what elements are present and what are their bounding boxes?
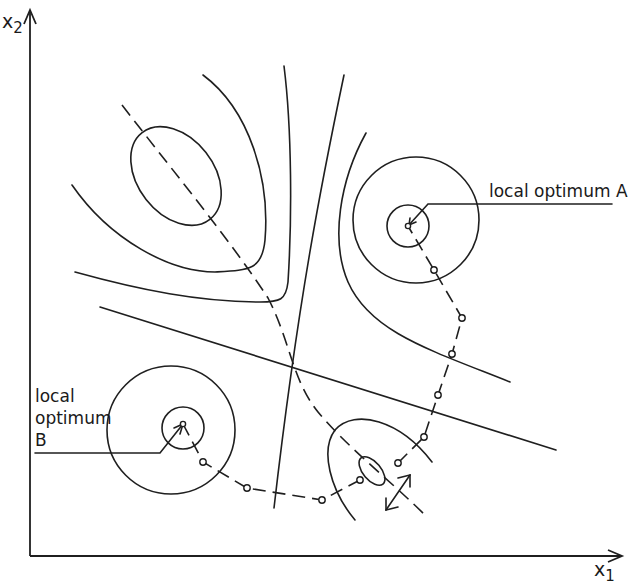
upper-left-contours [72,66,291,302]
x-axis-label: x1 [594,558,615,583]
start-region-contours [328,419,432,520]
contour-figure: x2 x1 local optimum A local optimum B [0,0,631,583]
optimum-a-point [405,223,410,228]
path-a-step [435,392,441,398]
path-a-step [459,315,465,321]
search-path-b-line [183,424,360,500]
path-a-step [449,351,455,357]
path-a-step [431,267,437,273]
path-b-step [244,485,250,491]
optimum-a-outer-circle [353,157,479,283]
optimum-b-label-line1: local [35,385,111,407]
optimum-b-label-line3: B [35,429,111,451]
axes [24,10,622,562]
optimum-b-outer-circle [107,366,235,494]
saddle-line-vertical [274,75,344,508]
path-a-step [421,434,427,440]
optimum-a-contours [353,157,612,283]
optimum-b-label: local optimum B [35,385,111,451]
path-b-step [357,477,363,483]
path-a-step [395,460,401,466]
optimum-a-label: local optimum A [489,180,628,202]
start-region-contour [328,419,432,520]
saddle-line-diagonal [100,307,556,450]
optimum-b-label-line2: optimum [35,407,111,429]
search-path-a-line [398,226,462,463]
contour-plot [0,0,631,583]
start-ellipse [354,452,390,490]
optimum-a-leader-line [408,204,612,226]
double-arrow-icon [386,475,410,510]
y-axis-label: x2 [2,10,23,37]
search-path-a [395,223,465,466]
path-b-step [200,459,206,465]
optimum-b-point [180,421,185,426]
upper-left-contour-2 [72,75,266,272]
path-b-step [319,497,325,503]
upper-left-ellipse [112,109,240,242]
